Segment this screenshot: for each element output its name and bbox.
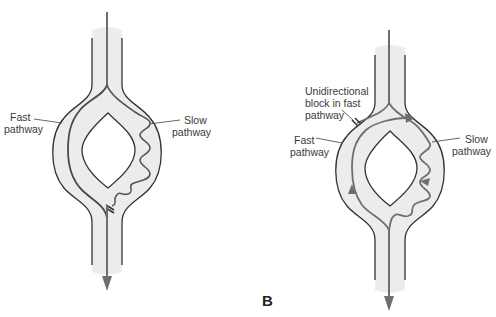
panel-letter-b: B: [262, 292, 273, 309]
label-line: pathway: [305, 109, 369, 121]
unidirectional-block-label: Unidirectional block in fast pathway: [305, 85, 369, 121]
arrowhead-down-icon: [384, 296, 394, 311]
arrowhead-down-icon: [102, 276, 112, 291]
fast-pathway-label-a: Fast pathway: [4, 111, 34, 135]
label-line: Fast: [4, 111, 34, 123]
label-line: block in fast: [305, 97, 369, 109]
diagram-canvas: [0, 0, 496, 317]
fast-pathway-label-b: Fast pathway: [290, 134, 329, 158]
label-line: Unidirectional: [305, 85, 369, 97]
label-line: Slow: [172, 114, 211, 126]
label-line: pathway: [290, 146, 329, 158]
panel-b: [316, 30, 460, 311]
panel-a: [34, 12, 180, 291]
slow-pathway-label-a: Slow pathway: [172, 114, 211, 138]
label-line: pathway: [172, 126, 211, 138]
label-line: Fast: [290, 134, 329, 146]
label-line: pathway: [4, 123, 34, 135]
label-line: pathway: [452, 145, 491, 157]
slow-pathway-label-b: Slow pathway: [452, 133, 491, 157]
label-line: Slow: [452, 133, 491, 145]
